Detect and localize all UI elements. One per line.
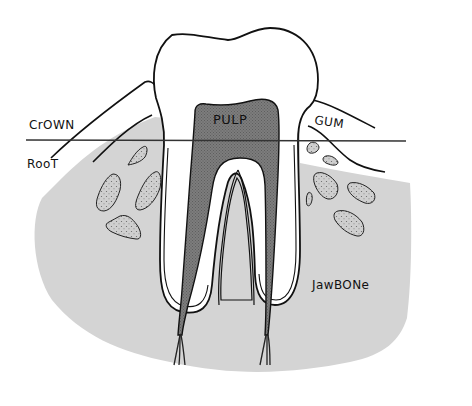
jawbone-label: JawBONe <box>311 278 369 292</box>
pulp-label: PULP <box>213 112 247 127</box>
tooth-anatomy-diagram: PULP CrOWN RooT GUM JawBONe <box>0 0 472 406</box>
crown-label: CrOWN <box>29 118 75 132</box>
right-bone-ridge <box>308 126 385 172</box>
crown-root-divider <box>26 140 406 141</box>
root-label: RooT <box>27 157 59 171</box>
gum-label: GUM <box>314 113 345 131</box>
